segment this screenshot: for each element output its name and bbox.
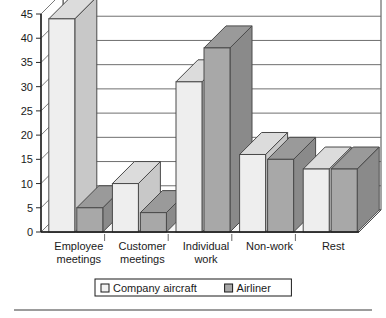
- y-axis-tick-label: 10: [21, 178, 33, 190]
- y-axis-tick-label: 0: [27, 226, 33, 238]
- x-axis-label: Rest: [322, 240, 345, 252]
- y-axis-tick-label: 20: [21, 129, 33, 141]
- x-axis-label: Individual: [183, 240, 229, 252]
- legend-swatch-icon: [225, 284, 233, 292]
- bar-chart-3d: 051015202530354045 EmployeemeetingsCusto…: [0, 0, 386, 318]
- y-axis-ticks: 051015202530354045: [21, 8, 41, 238]
- x-axis-label: Non-work: [246, 240, 294, 252]
- y-axis-tick-label: 5: [27, 202, 33, 214]
- chart-legend: Company aircraftAirliner: [95, 279, 291, 296]
- x-axis-label: Customer: [119, 240, 167, 252]
- y-axis-tick-label: 35: [21, 56, 33, 68]
- y-axis-tick-label: 15: [21, 153, 33, 165]
- y-axis-tick-label: 40: [21, 32, 33, 44]
- y-axis-tick-label: 25: [21, 105, 33, 117]
- x-axis-label: meetings: [56, 253, 101, 265]
- legend-entry-label: Company aircraft: [113, 282, 197, 294]
- x-axis-label: work: [193, 253, 218, 265]
- y-axis-tick-label: 30: [21, 81, 33, 93]
- x-axis-label: meetings: [120, 253, 165, 265]
- x-axis-category-labels: EmployeemeetingsCustomermeetingsIndividu…: [54, 234, 344, 265]
- x-axis-label: Employee: [54, 240, 103, 252]
- chart-figure: 051015202530354045 EmployeemeetingsCusto…: [0, 0, 386, 318]
- legend-entry-label: Airliner: [237, 282, 272, 294]
- legend-swatch-icon: [101, 284, 109, 292]
- y-axis-tick-label: 45: [21, 8, 33, 20]
